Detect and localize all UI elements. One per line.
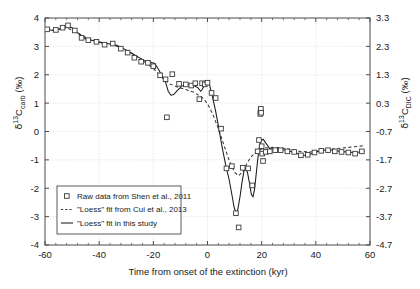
data-point-marker — [209, 91, 214, 96]
x-tick-label: -40 — [92, 249, 106, 260]
data-point-marker — [86, 38, 91, 43]
data-point-marker — [332, 149, 337, 154]
y-tick-label-left: 1 — [34, 98, 39, 109]
data-point-marker — [224, 166, 229, 171]
data-point-marker — [339, 150, 344, 155]
data-point-marker — [151, 64, 156, 69]
data-point-marker — [184, 82, 189, 87]
data-point-marker — [205, 80, 210, 85]
data-point-marker — [165, 115, 170, 120]
data-point-marker — [60, 25, 65, 30]
chart-canvas: -60-40-200204060-4-3-2-101234-4.7-3.7-2.… — [0, 0, 420, 289]
y-tick-label-left: 3 — [34, 41, 39, 52]
x-tick-label: 40 — [311, 249, 322, 260]
data-point-marker — [250, 183, 255, 188]
y-tick-label-left: 4 — [34, 12, 39, 23]
y-tick-label-right: -2.7 — [376, 183, 392, 194]
data-point-marker — [66, 23, 71, 28]
data-point-marker — [257, 138, 262, 143]
x-tick-label: -60 — [38, 249, 52, 260]
data-point-marker — [246, 166, 251, 171]
data-point-marker — [267, 149, 272, 154]
y-tick-label-right: -3.7 — [376, 211, 392, 222]
data-point-marker — [255, 149, 260, 154]
x-tick-label: 20 — [256, 249, 267, 260]
chart-figure: -60-40-200204060-4-3-2-101234-4.7-3.7-2.… — [0, 0, 420, 289]
y-tick-label-right: -4.7 — [376, 239, 392, 250]
legend-label-this-study-fit: "Loess" fit in this study — [77, 219, 157, 228]
data-point-marker — [72, 28, 77, 33]
data-point-marker — [261, 159, 266, 164]
data-point-marker — [236, 225, 241, 230]
data-point-marker — [158, 73, 163, 78]
data-point-marker — [146, 61, 151, 66]
y-tick-label-right: -0.7 — [376, 126, 392, 137]
data-point-marker — [353, 151, 358, 156]
y-tick-label-right: 2.3 — [376, 41, 389, 52]
data-point-marker — [125, 50, 130, 55]
data-point-marker — [193, 81, 198, 86]
data-point-marker — [273, 148, 278, 153]
data-point-marker — [139, 59, 144, 64]
x-tick-label: -20 — [146, 249, 160, 260]
data-point-marker — [346, 150, 351, 155]
data-point-marker — [299, 153, 304, 158]
data-point-marker — [278, 148, 283, 153]
y-tick-label-right: 3.3 — [376, 12, 389, 23]
series-loess-this-study — [46, 26, 364, 213]
y-tick-label-left: -2 — [31, 183, 39, 194]
data-point-marker — [234, 211, 239, 216]
data-point-marker — [259, 110, 264, 115]
x-tick-label: 60 — [365, 249, 376, 260]
y-tick-label-left: 0 — [34, 126, 39, 137]
y-axis-right-label: δ13CDIC (‰) — [398, 58, 412, 148]
data-point-marker — [230, 164, 235, 169]
y-tick-label-left: -1 — [31, 154, 39, 165]
data-point-marker — [45, 27, 50, 32]
legend-marker-raw-data — [65, 194, 70, 199]
legend-label-cui-fit: "Loess" fit from Cui et al., 2013 — [77, 205, 187, 214]
data-point-marker — [132, 55, 137, 60]
legend-label-raw-data: Raw data from Shen et al., 2011 — [77, 192, 192, 201]
y-tick-label-right: 0.3 — [376, 98, 389, 109]
data-point-marker — [259, 144, 264, 149]
data-point-marker — [240, 166, 245, 171]
data-point-marker — [79, 36, 84, 41]
x-tick-label: 0 — [205, 249, 210, 260]
data-point-marker — [326, 148, 331, 153]
data-point-marker — [163, 77, 168, 82]
data-point-marker — [177, 82, 182, 87]
y-tick-label-right: -1.7 — [376, 154, 392, 165]
data-point-marker — [170, 72, 175, 77]
data-point-marker — [305, 152, 310, 157]
y-tick-label-left: 2 — [34, 69, 39, 80]
x-axis-label: Time from onset of the extinction (kyr) — [45, 266, 371, 277]
data-point-marker — [312, 150, 317, 155]
data-point-marker — [292, 150, 297, 155]
data-point-marker — [197, 97, 202, 102]
data-point-marker — [319, 149, 324, 154]
data-point-marker — [219, 126, 224, 131]
data-point-marker — [102, 42, 107, 47]
data-point-marker — [213, 96, 218, 101]
data-point-marker — [285, 149, 290, 154]
y-tick-label-left: -4 — [31, 239, 39, 250]
y-axis-left-label: δ13Ccarb (‰) — [12, 58, 26, 148]
data-point-marker — [360, 149, 365, 154]
y-tick-label-right: 1.3 — [376, 69, 389, 80]
data-point-marker — [110, 41, 115, 46]
data-point-marker — [119, 46, 124, 51]
data-point-marker — [94, 40, 99, 45]
y-tick-label-left: -3 — [31, 211, 39, 222]
data-point-marker — [54, 28, 59, 33]
